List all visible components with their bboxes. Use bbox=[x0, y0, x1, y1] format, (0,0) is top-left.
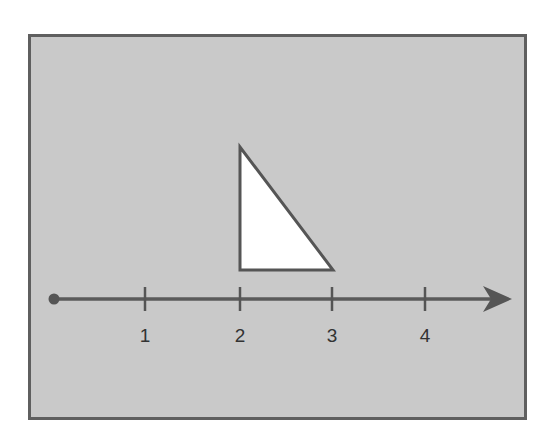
number-line-diagram bbox=[0, 0, 550, 438]
right-triangle bbox=[240, 147, 333, 270]
tick-label-2: 2 bbox=[235, 326, 246, 345]
start-dot-icon bbox=[49, 294, 60, 305]
tick-label-1: 1 bbox=[140, 326, 151, 345]
tick-label-3: 3 bbox=[327, 326, 338, 345]
tick-label-4: 4 bbox=[420, 326, 431, 345]
